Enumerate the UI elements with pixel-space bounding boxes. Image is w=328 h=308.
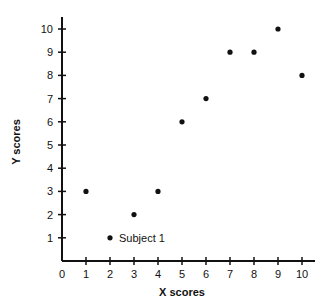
data-point [203,96,208,101]
data-point [179,119,184,124]
x-tick-label: 3 [131,268,137,280]
data-points: Subject 1 [83,26,304,243]
y-tick-label: 4 [47,162,53,174]
data-point [299,73,304,78]
x-axis-title: X scores [159,286,205,298]
data-point [275,26,280,31]
y-tick-label: 2 [47,209,53,221]
data-point [107,235,112,240]
x-tick-label: 0 [59,268,65,280]
data-point [83,189,88,194]
y-tick-label: 7 [47,93,53,105]
x-tick-label: 5 [179,268,185,280]
y-tick-label: 8 [47,69,53,81]
scatter-chart: 01234567891012345678910 Subject 1 X scor… [0,0,328,308]
x-tick-label: 6 [203,268,209,280]
x-tick-label: 7 [227,268,233,280]
data-point [155,189,160,194]
x-tick-label: 10 [296,268,308,280]
y-tick-label: 3 [47,185,53,197]
x-tick-label: 2 [107,268,113,280]
x-tick-label: 9 [275,268,281,280]
y-tick-label: 10 [41,23,53,35]
data-point [251,50,256,55]
y-axis-title: Y scores [10,119,22,165]
y-tick-label: 5 [47,139,53,151]
y-tick-label: 1 [47,232,53,244]
x-tick-label: 8 [251,268,257,280]
y-tick-label: 9 [47,46,53,58]
x-tick-label: 1 [83,268,89,280]
axes: 01234567891012345678910 [41,17,315,280]
data-point [131,212,136,217]
point-annotation: Subject 1 [119,232,165,244]
data-point [227,50,232,55]
y-tick-label: 6 [47,116,53,128]
x-tick-label: 4 [155,268,161,280]
